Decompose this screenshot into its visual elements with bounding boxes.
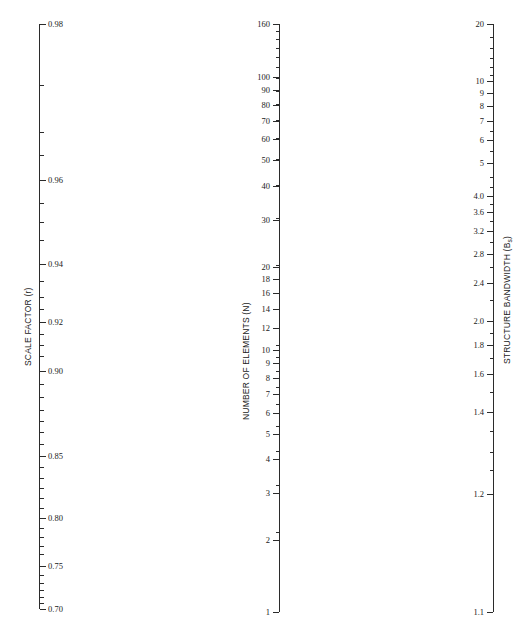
axis-tick-label: 18 (230, 275, 270, 284)
axis-major-tick (487, 106, 493, 107)
axis-major-tick (487, 231, 493, 232)
axis-tick-label: 40 (230, 182, 270, 191)
axis-major-tick (273, 293, 279, 294)
axis-tick-label: 1.1 (444, 608, 484, 617)
axis-title: STRUCTURE BANDWIDTH (Bs) (502, 236, 512, 364)
axis-minor-tick (490, 37, 494, 38)
axis-major-tick (40, 24, 46, 25)
axis-tick-label: 0.94 (48, 260, 63, 269)
axis-tick-label: 3.2 (444, 227, 484, 236)
axis-tick-label: 4 (230, 455, 270, 464)
axis-minor-tick (40, 537, 44, 538)
axis-minor-tick (276, 78, 280, 79)
axis-tick-label: 16 (230, 289, 270, 298)
axis-tick-label: 9 (444, 89, 484, 98)
axis-major-tick (487, 321, 493, 322)
axis-minor-tick (276, 265, 280, 266)
axis-minor-tick (40, 528, 44, 529)
axis-major-tick (273, 434, 279, 435)
axis-minor-tick (40, 356, 44, 357)
axis-minor-tick (40, 132, 44, 133)
axis-title-subscript: s (506, 239, 513, 242)
axis-minor-tick (40, 281, 44, 282)
axis-minor-tick (40, 508, 44, 509)
axis-major-tick (487, 283, 493, 284)
axis-tick-label: 1 (230, 608, 270, 617)
axis-minor-tick (490, 333, 494, 334)
axis-tick-label: 1.4 (444, 408, 484, 417)
axis-minor-tick (490, 48, 494, 49)
axis-major-tick (40, 456, 46, 457)
axis-minor-tick (40, 240, 44, 241)
axis-minor-tick (276, 104, 280, 105)
axis-major-tick (487, 81, 493, 82)
axis-major-tick (40, 322, 46, 323)
axis-minor-tick (40, 590, 44, 591)
axis-tick-label: 90 (230, 86, 270, 95)
axis-tick-label: 3 (230, 489, 270, 498)
axis-major-tick (487, 196, 493, 197)
axis-tick-label: 20 (444, 20, 484, 29)
axis-minor-tick (276, 426, 280, 427)
axis-tick-label: 5 (230, 430, 270, 439)
axis-major-tick (487, 121, 493, 122)
axis-major-tick (487, 93, 493, 94)
axis-minor-tick (40, 575, 44, 576)
axis-minor-tick (490, 75, 494, 76)
axis-major-tick (40, 518, 46, 519)
axis-minor-tick (490, 58, 494, 59)
axis-tick-label: 6 (444, 136, 484, 145)
axis-tick-label: 1.8 (444, 341, 484, 350)
axis-minor-tick (276, 91, 280, 92)
axis-minor-tick (276, 24, 280, 25)
axis-tick-label: 60 (230, 135, 270, 144)
axis-minor-tick (40, 297, 44, 298)
axis-line (279, 24, 280, 612)
axis-major-tick (40, 566, 46, 567)
axis-minor-tick (490, 242, 494, 243)
axis-major-tick (40, 609, 46, 610)
axis-minor-tick (40, 334, 44, 335)
axis-minor-tick (276, 371, 280, 372)
axis-minor-tick (40, 410, 44, 411)
axis-major-tick (487, 254, 493, 255)
nomogram-figure: 0.980.960.940.920.900.850.800.750.70SCAL… (0, 0, 518, 628)
axis-major-tick (273, 220, 279, 221)
axis-minor-tick (40, 384, 44, 385)
axis-minor-tick (40, 546, 44, 547)
axis-minor-tick (40, 444, 44, 445)
axis-tick-label: 2.0 (444, 317, 484, 326)
axis-minor-tick (490, 358, 494, 359)
axis-minor-tick (40, 432, 44, 433)
axis-title: NUMBER OF ELEMENTS (N) (241, 302, 251, 420)
axis-major-tick (273, 493, 279, 494)
axis-major-tick (273, 328, 279, 329)
axis-tick-label: 1.6 (444, 370, 484, 379)
axis-major-tick (273, 394, 279, 395)
axis-minor-tick (276, 159, 280, 160)
axis-minor-tick (276, 39, 280, 40)
axis-major-tick (273, 350, 279, 351)
axis-tick-label: 30 (230, 216, 270, 225)
axis-minor-tick (40, 498, 44, 499)
axis-minor-tick (40, 554, 44, 555)
axis-minor-tick (276, 218, 280, 219)
axis-tick-label: 10 (444, 77, 484, 86)
axis-tick-label: 80 (230, 101, 270, 110)
axis-major-tick (487, 163, 493, 164)
axis-tick-label: 160 (230, 20, 270, 29)
axis-minor-tick (276, 345, 280, 346)
axis-minor-tick (40, 603, 44, 604)
axis-major-tick (487, 412, 493, 413)
axis-minor-tick (490, 470, 494, 471)
axis-tick-label: 2.4 (444, 279, 484, 288)
axis-minor-tick (40, 397, 44, 398)
axis-minor-tick (40, 478, 44, 479)
axis-major-tick (273, 363, 279, 364)
axis-minor-tick (490, 431, 494, 432)
axis-tick-label: 0.92 (48, 318, 63, 327)
axis-minor-tick (40, 488, 44, 489)
axis-line (493, 24, 494, 612)
axis-tick-label: 0.80 (48, 514, 63, 523)
axis-major-tick (273, 540, 279, 541)
